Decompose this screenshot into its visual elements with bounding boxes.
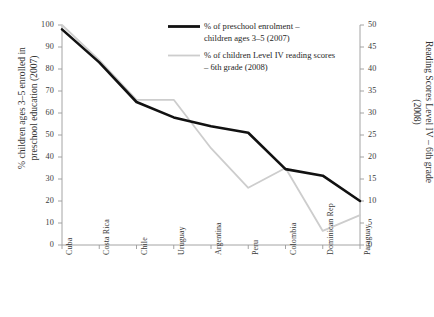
x-category-label: Costa Rica (102, 219, 111, 255)
left-tick-label: 70 (26, 86, 54, 95)
chart-figure: % children ages 3–5 enrolled in preschoo… (0, 0, 434, 317)
right-tick-label: 45 (368, 42, 394, 51)
left-axis-ticks (58, 25, 62, 245)
right-tick-label: 35 (368, 86, 394, 95)
right-axis-ticks (360, 25, 364, 245)
right-tick-label: 40 (368, 64, 394, 73)
x-category-label: Chile (140, 237, 149, 255)
left-tick-label: 10 (26, 218, 54, 227)
right-tick-label: 10 (368, 196, 394, 205)
left-tick-label: 90 (26, 42, 54, 51)
right-tick-label: 50 (368, 20, 394, 29)
legend-label-reading-scores: % of children Level IV reading scores – … (204, 50, 335, 73)
x-category-label: Colombia (289, 223, 298, 255)
left-tick-label: 60 (26, 108, 54, 117)
left-tick-label: 40 (26, 152, 54, 161)
x-category-label: Uruguay (177, 226, 186, 255)
x-category-label: Paraguay (363, 224, 372, 255)
right-tick-label: 15 (368, 174, 394, 183)
left-tick-label: 30 (26, 174, 54, 183)
left-tick-label: 20 (26, 196, 54, 205)
left-tick-label: 100 (26, 20, 54, 29)
left-tick-label: 50 (26, 130, 54, 139)
x-category-label: Cuba (65, 238, 74, 255)
left-tick-label: 0 (26, 240, 54, 249)
right-tick-label: 30 (368, 108, 394, 117)
legend-label-preschool-enrolment: % of preschool enrolment – children ages… (204, 21, 299, 44)
x-category-label: Peru (251, 240, 260, 255)
right-tick-label: 25 (368, 130, 394, 139)
x-category-label: Dominican Rep (326, 203, 335, 255)
left-tick-label: 80 (26, 64, 54, 73)
right-tick-label: 20 (368, 152, 394, 161)
x-category-label: Argentina (214, 222, 223, 255)
